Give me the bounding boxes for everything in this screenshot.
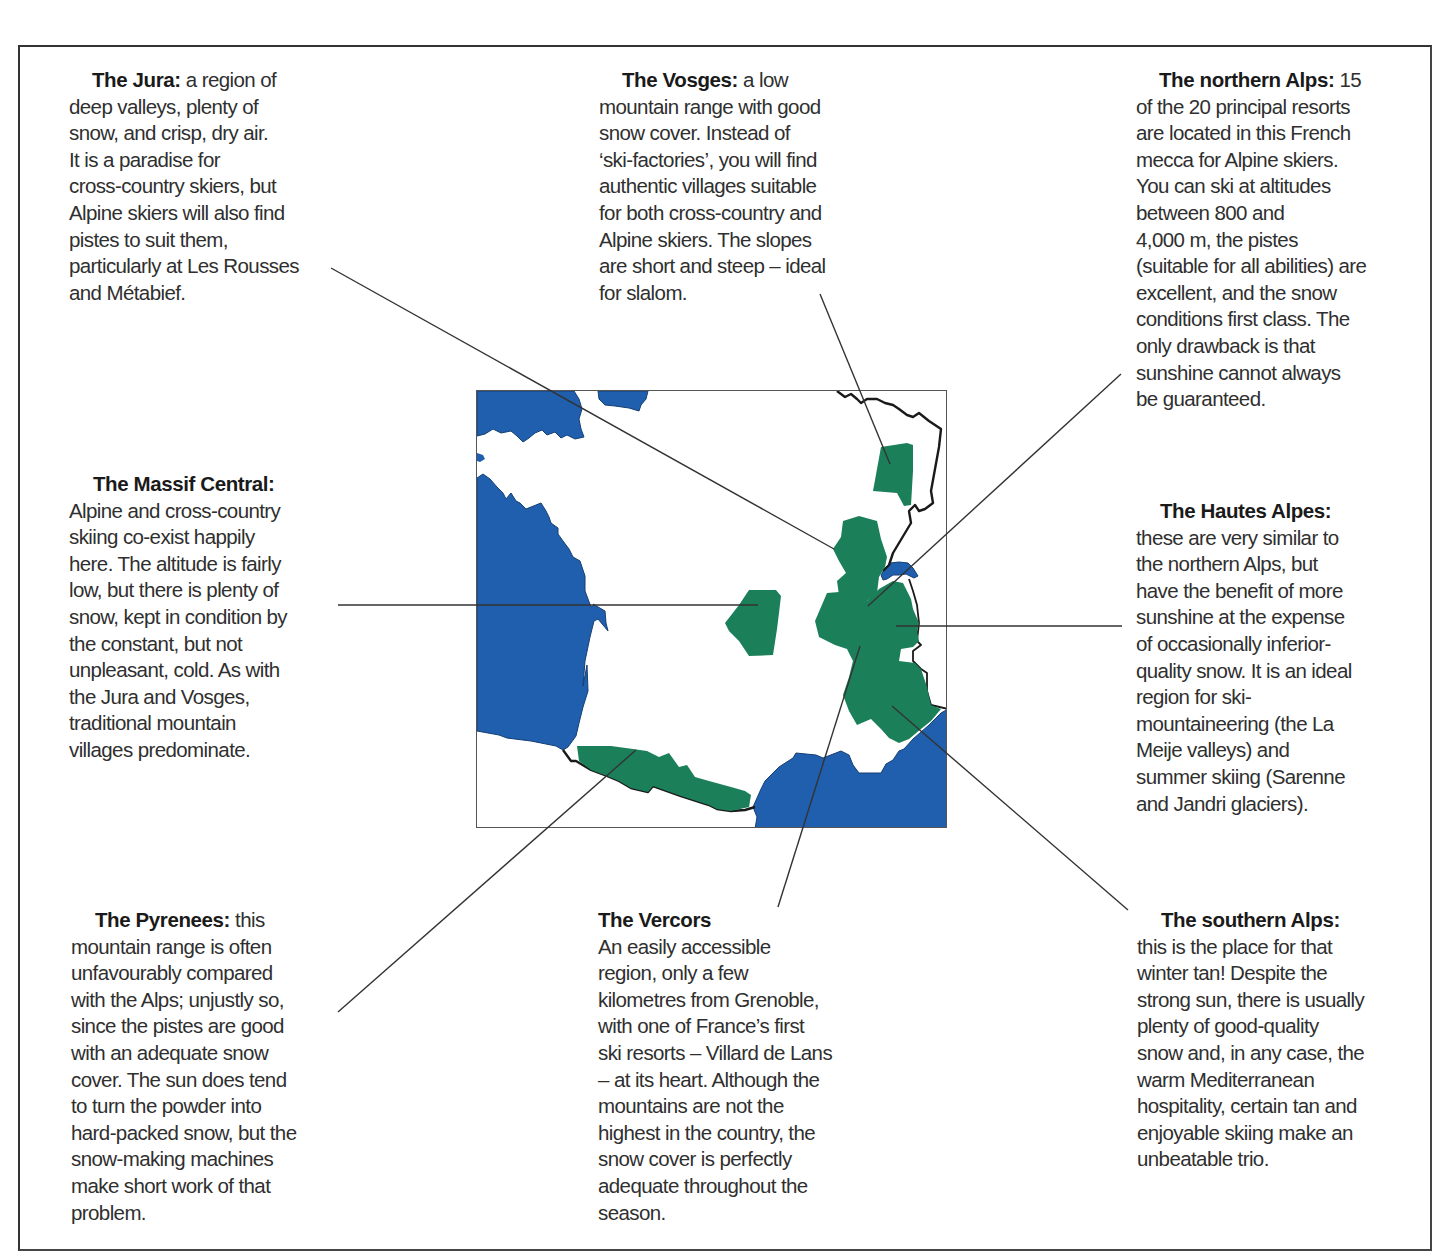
region-title-jura: The Jura: [92, 68, 181, 91]
ski-region-pyrenees [577, 746, 751, 811]
region-title-southern-alps: The southern Alps: [1161, 908, 1340, 931]
region-text-massif-central: The Massif Central: Alpine and cross-cou… [69, 471, 287, 764]
region-title-hautes-alpes: The Hautes Alpes: [1160, 499, 1331, 522]
region-text-pyrenees: The Pyrenees: this mountain range is oft… [71, 907, 296, 1226]
region-title-vercors: The Vercors [598, 908, 711, 931]
france-ski-map [476, 390, 947, 828]
sea-channel [477, 391, 584, 442]
sea-atlantic [477, 474, 608, 750]
region-title-massif-central: The Massif Central: [93, 472, 275, 495]
ski-region-vosges [873, 443, 913, 506]
region-text-vosges: The Vosges: a low mountain range with go… [599, 67, 826, 306]
region-text-southern-alps: The southern Alps: this is the place for… [1137, 907, 1364, 1173]
sea-island [477, 453, 485, 462]
ski-region-alps [815, 581, 941, 743]
region-title-northern-alps: The northern Alps: [1159, 68, 1334, 91]
lake-geneva [881, 562, 918, 580]
sea-channel-islands [598, 391, 648, 411]
map-graphic [477, 391, 947, 828]
region-title-vosges: The Vosges: [622, 68, 738, 91]
region-text-vercors: The Vercors An easily accessible region,… [598, 907, 832, 1226]
ski-region-massif-central [725, 590, 781, 656]
region-title-pyrenees: The Pyrenees: [95, 908, 230, 931]
region-text-hautes-alpes: The Hautes Alpes: these are very similar… [1136, 498, 1352, 817]
region-text-jura: The Jura: a region of deep valleys, plen… [69, 67, 299, 306]
region-text-northern-alps: The northern Alps: 15 of the 20 principa… [1136, 67, 1366, 413]
